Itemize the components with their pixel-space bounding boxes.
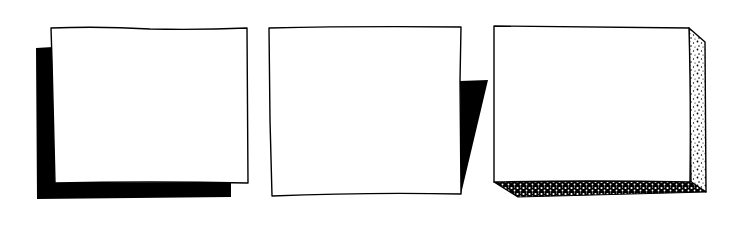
panel-stippled-extrusion: [494, 26, 706, 197]
box-outline: [494, 26, 690, 182]
panel-solid-offset-shadow: [36, 27, 248, 199]
right-extrusion-face: [689, 28, 706, 192]
bottom-extrusion-face: [494, 181, 706, 197]
wedge-shadow: [460, 80, 488, 194]
shadow-styles-diagram: [0, 0, 742, 229]
box-outline: [269, 27, 461, 196]
panel-wedge-shadow: [269, 27, 488, 196]
box-outline: [51, 27, 248, 183]
